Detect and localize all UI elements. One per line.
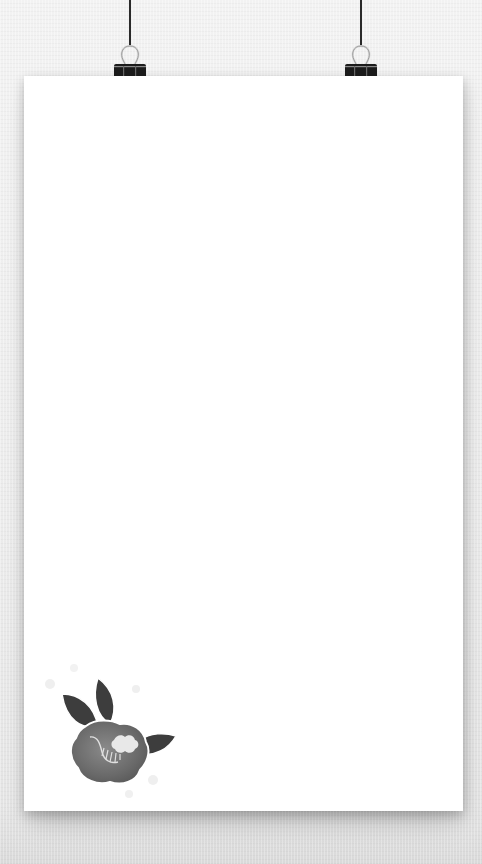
camellia-flower-icon: [36, 656, 186, 806]
wall-background: [0, 804, 482, 864]
